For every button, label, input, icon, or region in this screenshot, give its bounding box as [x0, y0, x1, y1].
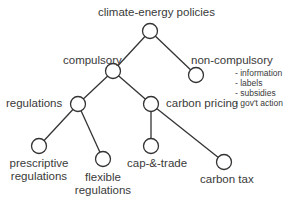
node-carbon-pricing	[144, 97, 159, 112]
label-non-compulsory: non-compulsory	[191, 54, 273, 67]
label-root: climate-energy policies	[98, 6, 215, 19]
node-regulations	[71, 97, 86, 112]
edge-carbonpricing-carbontax	[151, 104, 224, 162]
label-carbon-tax: carbon tax	[200, 173, 254, 186]
non-compulsory-notes: - information - labels - subsidies - gov…	[235, 68, 283, 108]
note-item: - information	[235, 68, 283, 78]
node-carbon-tax	[217, 155, 232, 170]
node-root	[143, 24, 158, 39]
node-prescriptive-regulations	[32, 139, 47, 154]
edge-root-noncompulsory	[150, 31, 196, 75]
note-item: - gov't action	[235, 98, 283, 108]
label-line: flexible	[74, 171, 132, 184]
label-flexible-regulations: flexible regulations	[74, 171, 132, 197]
label-line: regulations	[5, 170, 73, 183]
label-regulations: regulations	[6, 97, 62, 110]
edge-regulations-flexible	[78, 104, 103, 159]
node-cap-and-trade	[144, 139, 159, 154]
label-compulsory: compulsory	[63, 54, 122, 67]
label-prescriptive-regulations: prescriptive regulations	[5, 157, 73, 183]
label-cap-and-trade: cap-&-trade	[127, 157, 187, 170]
edge-regulations-prescriptive	[39, 104, 78, 146]
label-line: regulations	[74, 184, 132, 197]
note-item: - labels	[235, 78, 283, 88]
node-flexible-regulations	[96, 152, 111, 167]
label-line: prescriptive	[5, 157, 73, 170]
node-non-compulsory	[189, 68, 204, 83]
note-item: - subsidies	[235, 88, 283, 98]
label-carbon-pricing: carbon pricing	[166, 97, 238, 110]
